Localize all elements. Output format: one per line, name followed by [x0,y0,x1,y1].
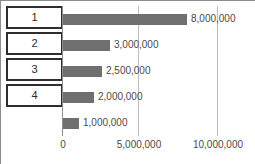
bar[interactable] [63,92,94,103]
category-label-text: 2 [31,38,37,49]
bar[interactable] [63,40,110,51]
category-label-text: 3 [31,64,37,75]
x-axis-tick-label: 5,000,000 [117,140,162,150]
x-axis-tick-labels: 0 5,000,000 10,000,000 [62,140,250,156]
bar-row: 8,000,000 [63,6,250,32]
bar-row: 1,000,000 [63,110,250,136]
bar-value-label: 2,500,000 [106,66,151,76]
bar-value-label: 1,000,000 [83,118,128,128]
bar-row: 3,000,000 [63,32,250,58]
category-label-box[interactable]: 3 [6,58,63,81]
bar-row: 2,500,000 [63,58,250,84]
category-label-box[interactable]: 1 [6,6,63,29]
bar-chart: 1 2 3 4 8,000,000 3,000,000 2,500 [0,0,255,164]
category-label-text: 1 [31,12,37,23]
category-label-text: 4 [31,90,37,101]
x-axis-tick-label: 10,000,000 [193,140,243,150]
bar-row-list: 8,000,000 3,000,000 2,500,000 2,000,000 … [63,6,250,136]
bar[interactable] [63,118,79,129]
bar-row: 2,000,000 [63,84,250,110]
bar[interactable] [63,14,187,25]
category-label-column: 1 2 3 4 [6,6,63,110]
bar-value-label: 3,000,000 [114,40,159,50]
category-label-box[interactable]: 2 [6,32,63,55]
bar-value-label: 8,000,000 [191,14,236,24]
bar-value-label: 2,000,000 [98,92,143,102]
category-label-box[interactable]: 4 [6,84,63,107]
plot-area: 8,000,000 3,000,000 2,500,000 2,000,000 … [62,6,250,136]
bar[interactable] [63,66,102,77]
x-axis-tick-label: 0 [60,140,66,150]
